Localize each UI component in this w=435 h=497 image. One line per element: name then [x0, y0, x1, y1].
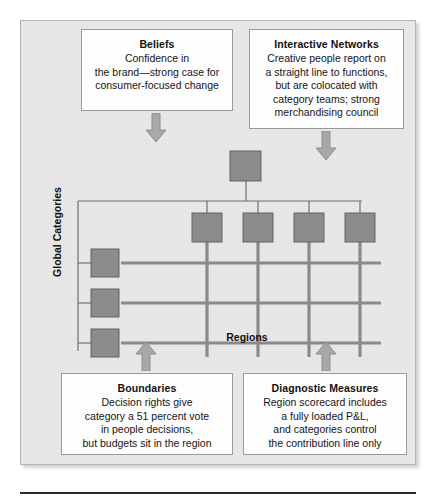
callout-boundaries-line-3: in people decisions,: [68, 423, 226, 437]
callout-interactive-networks-line-1: Creative people report on: [256, 52, 397, 66]
callout-diagnostic-measures-body: Region scorecard includes a fully loaded…: [250, 396, 400, 450]
callout-beliefs-line-1: Confidence in: [88, 52, 226, 66]
callout-boundaries-line-4: but budgets sit in the region: [68, 437, 226, 451]
x-axis-label-regions: Regions: [187, 331, 307, 343]
callout-diagnostic-measures-title: Diagnostic Measures: [250, 381, 400, 395]
callout-beliefs: Beliefs Confidence in the brand—strong c…: [81, 29, 233, 111]
down-arrow-icon-beliefs: [145, 113, 167, 143]
region-nodes: [192, 213, 375, 242]
callout-interactive-networks-line-2: a straight line to functions,: [256, 66, 397, 80]
callout-interactive-networks-line-5: merchandising council: [256, 106, 397, 120]
org-connectors: [78, 181, 362, 351]
figure-frame: Regions Global Categories Beliefs Confid…: [20, 20, 416, 465]
callout-beliefs-title: Beliefs: [88, 37, 226, 51]
callout-diagnostic-measures-line-1: Region scorecard includes: [250, 396, 400, 410]
down-arrow-icon-networks: [315, 131, 337, 161]
callout-diagnostic-measures-line-4: the contribution line only: [250, 437, 400, 451]
y-axis-label-global-categories: Global Categories: [51, 172, 63, 292]
category-nodes: [91, 249, 119, 357]
up-arrow-icon-diagnostic: [315, 341, 337, 371]
up-arrow-icon-boundaries: [135, 341, 157, 371]
callout-interactive-networks-line-4: category teams; strong: [256, 93, 397, 107]
callout-interactive-networks-title: Interactive Networks: [256, 37, 397, 51]
callout-beliefs-body: Confidence in the brand—strong case for …: [88, 52, 226, 93]
callout-boundaries-title: Boundaries: [68, 381, 226, 395]
callout-diagnostic-measures-line-3: and categories control: [250, 423, 400, 437]
callout-beliefs-line-3: consumer-focused change: [88, 79, 226, 93]
root-node: [230, 151, 261, 181]
callout-diagnostic-measures-line-2: a fully loaded P&L,: [250, 410, 400, 424]
callout-interactive-networks-line-3: but are colocated with: [256, 79, 397, 93]
callout-beliefs-line-2: the brand—strong case for: [88, 66, 226, 80]
callout-interactive-networks-body: Creative people report on a straight lin…: [256, 52, 397, 120]
callout-boundaries-body: Decision rights give category a 51 perce…: [68, 396, 226, 450]
callout-boundaries: Boundaries Decision rights give category…: [61, 373, 233, 455]
callout-boundaries-line-2: category a 51 percent vote: [68, 410, 226, 424]
bottom-divider-rule: [20, 492, 416, 494]
callout-diagnostic-measures: Diagnostic Measures Region scorecard inc…: [243, 373, 407, 455]
callout-interactive-networks: Interactive Networks Creative people rep…: [249, 29, 404, 129]
callout-boundaries-line-1: Decision rights give: [68, 396, 226, 410]
